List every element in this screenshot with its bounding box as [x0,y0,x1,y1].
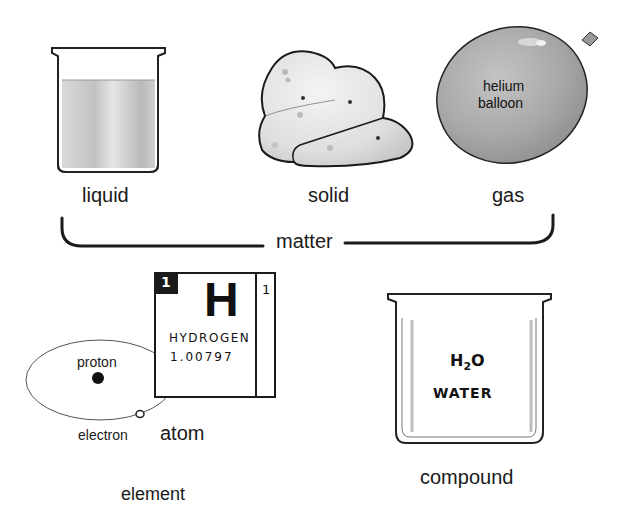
gas-label: gas [492,184,524,207]
atom-diagram [26,340,174,420]
compound-label: compound [420,466,513,489]
element-symbol: H [204,272,239,327]
solid-rock-icon [259,51,412,166]
proton-label: proton [77,354,117,370]
liquid-label: liquid [82,184,129,207]
element-name: HYDROGEN [169,331,250,345]
solid-label: solid [308,184,349,207]
atom-label: atom [160,422,204,445]
diagram-illustrations [0,0,625,530]
atomic-number: 1 [161,274,171,290]
atomic-mass: 1.00797 [170,350,234,364]
element-label: element [121,484,185,505]
side-number: 1 [262,282,270,297]
liquid-beaker-icon [52,48,165,172]
balloon-label-line1: helium [483,78,524,94]
electron-dot [136,411,144,418]
matter-label: matter [276,230,333,253]
compound-name: WATER [433,385,492,401]
compound-formula: H2O [450,351,485,373]
proton-dot [92,372,104,384]
balloon-label-line2: balloon [478,95,523,111]
electron-label: electron [78,427,128,443]
